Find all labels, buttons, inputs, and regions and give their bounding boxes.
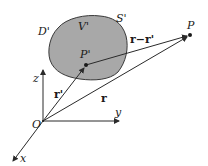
diagram-svg: D' V' S' P' P O z y x r' r r−r' (0, 0, 208, 166)
label-point-p: P (186, 19, 195, 32)
label-region-d-prime: D' (37, 25, 50, 38)
label-vector-r-minus-r-prime: r−r' (130, 33, 154, 46)
point-p-prime (84, 63, 88, 67)
diagram-canvas: D' V' S' P' P O z y x r' r r−r' (0, 0, 208, 166)
point-p (188, 33, 192, 37)
vector-r-prime (43, 68, 84, 121)
label-y-axis: y (114, 106, 122, 119)
label-x-axis: x (20, 152, 27, 165)
label-surface-s-prime: S' (116, 12, 127, 25)
label-origin: O (32, 118, 41, 131)
label-z-axis: z (32, 72, 39, 85)
label-point-p-prime: P' (79, 48, 90, 61)
label-vector-r-prime: r' (54, 88, 63, 101)
label-volume-v-prime: V' (78, 20, 89, 33)
label-vector-r: r (101, 92, 107, 105)
point-origin (42, 120, 44, 122)
